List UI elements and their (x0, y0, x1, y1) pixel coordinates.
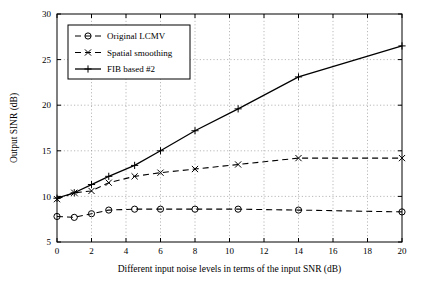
y-tick-label: 25 (42, 55, 52, 65)
legend-item-label: Original LCMV (107, 31, 166, 41)
y-tick-label: 20 (42, 100, 52, 110)
y-tick-label: 15 (42, 146, 52, 156)
y-tick-label: 5 (47, 237, 52, 247)
x-tick-label: 6 (158, 246, 163, 256)
x-tick-label: 16 (329, 246, 339, 256)
y-tick-label: 30 (42, 9, 52, 19)
x-axis-title: Different input noise levels in terms of… (118, 264, 342, 275)
x-tick-label: 0 (55, 246, 60, 256)
legend-item-label: Spatial smoothing (107, 48, 173, 58)
x-tick-label: 20 (398, 246, 408, 256)
x-tick-label: 10 (225, 246, 235, 256)
y-axis-tick-labels: 51015202530 (42, 9, 52, 247)
x-tick-label: 8 (193, 246, 198, 256)
x-tick-label: 18 (363, 246, 373, 256)
y-tick-label: 10 (42, 192, 52, 202)
x-tick-label: 14 (294, 246, 304, 256)
x-tick-label: 2 (89, 246, 94, 256)
chart-legend: Original LCMVSpatial smoothingFIB based … (68, 25, 190, 79)
x-axis-tick-labels: 02468101214161820 (55, 246, 407, 256)
legend-item-label: FIB based #2 (107, 64, 155, 74)
y-axis-title: Output SINR (dB) (9, 93, 20, 163)
chart-figure: 02468101214161820 51015202530 Different … (0, 0, 428, 297)
x-tick-label: 4 (124, 246, 129, 256)
line-chart: 02468101214161820 51015202530 Different … (0, 0, 428, 297)
x-tick-label: 12 (260, 246, 269, 256)
